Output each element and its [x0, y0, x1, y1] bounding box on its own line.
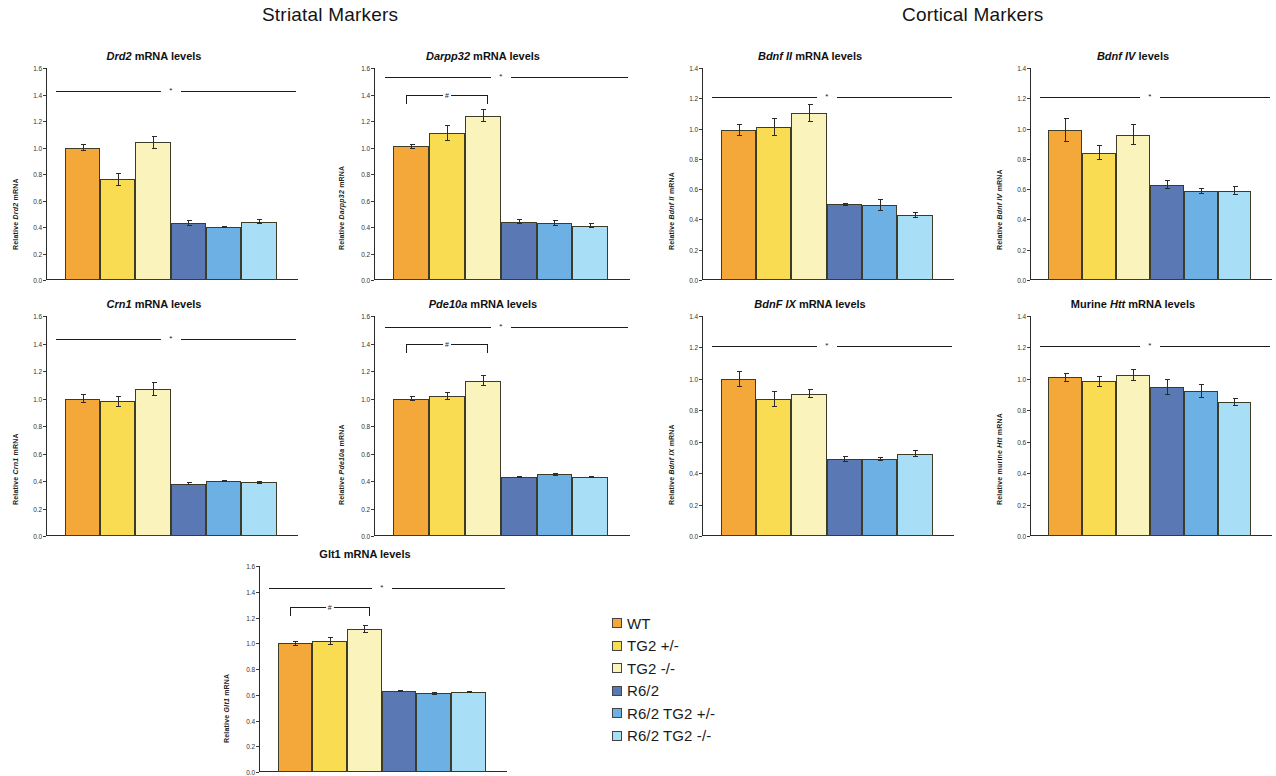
y-tick: [43, 201, 46, 202]
bar: [1116, 135, 1150, 280]
y-tick-label: 0.0: [689, 277, 698, 284]
y-tick: [371, 95, 374, 96]
significance-symbol: *: [499, 323, 502, 331]
error-bar: [1167, 180, 1168, 189]
error-bar: [188, 482, 189, 485]
y-tick: [699, 68, 702, 69]
y-tick: [256, 669, 259, 670]
y-tick-label: 0.6: [361, 450, 370, 457]
y-tick: [43, 148, 46, 149]
y-tick-label: 1.6: [361, 313, 370, 320]
bar: [721, 130, 756, 280]
y-tick-label: 1.0: [1017, 125, 1026, 132]
y-tick: [43, 509, 46, 510]
error-bar: [447, 125, 448, 141]
significance-symbol: *: [169, 87, 172, 95]
y-tick-label: 1.4: [1017, 65, 1026, 72]
y-tick-label: 1.0: [689, 375, 698, 382]
y-tick-label: 1.4: [246, 588, 255, 595]
y-tick-label: 0.4: [361, 224, 370, 231]
y-tick: [1027, 250, 1030, 251]
bracket-symbol: #: [443, 91, 451, 98]
y-tick: [1027, 219, 1030, 220]
y-tick-label: 0.8: [1017, 407, 1026, 414]
bar: [897, 454, 932, 537]
error-bar: [1099, 145, 1100, 160]
bar: [1082, 153, 1116, 280]
bar: [1218, 402, 1252, 536]
y-axis-line: [46, 316, 47, 536]
legend-label-wt: WT: [627, 615, 651, 632]
error-bar: [153, 136, 154, 149]
bar: [465, 381, 501, 536]
chart-title-htt: Murine Htt mRNA levels: [988, 298, 1276, 310]
y-tick: [43, 536, 46, 537]
error-bar: [259, 219, 260, 224]
significance-line-left: [712, 97, 816, 98]
legend-item: WT: [612, 612, 715, 635]
y-axis-line: [46, 68, 47, 280]
chart-title-crn1: Crn1 mRNA levels: [4, 298, 304, 310]
y-tick: [699, 159, 702, 160]
significance-line-left: [269, 588, 372, 589]
y-tick: [699, 129, 702, 130]
chart-title-glt1: Glt1 mRNA levels: [215, 548, 515, 560]
y-tick-label: 0.0: [246, 769, 255, 776]
chart-panel-darpp32: Darpp32 mRNA levelsRelative Darpp32 mRNA…: [330, 50, 636, 282]
bar: [100, 179, 135, 280]
significance-line-right: [392, 588, 505, 589]
error-bar: [774, 118, 775, 136]
y-tick-label: 0.6: [33, 450, 42, 457]
y-tick: [43, 68, 46, 69]
y-tick: [371, 148, 374, 149]
y-tick-label: 0.6: [246, 691, 255, 698]
y-tick: [43, 481, 46, 482]
legend-label-tg2-het: TG2 +/-: [627, 637, 679, 654]
bar: [537, 223, 573, 280]
error-bar: [1234, 398, 1235, 406]
y-tick: [256, 618, 259, 619]
bar: [465, 116, 501, 280]
error-bar: [447, 392, 448, 400]
error-bar: [153, 382, 154, 396]
error-bar: [519, 219, 520, 224]
bar: [312, 641, 347, 772]
significance-line-left: [1040, 346, 1140, 347]
error-bar: [259, 481, 260, 484]
y-tick-label: 1.2: [689, 95, 698, 102]
error-bar: [590, 223, 591, 228]
error-bar: [554, 473, 555, 476]
error-bar: [739, 124, 740, 136]
error-bar: [809, 389, 810, 398]
y-tick-label: 1.0: [689, 125, 698, 132]
y-tick: [1027, 410, 1030, 411]
y-tick: [1027, 98, 1030, 99]
error-bar: [1133, 369, 1134, 382]
significance-line-right: [837, 97, 952, 98]
error-bar: [224, 480, 225, 483]
y-tick: [1027, 536, 1030, 537]
bar: [135, 142, 170, 280]
y-tick: [699, 280, 702, 281]
bar: [1184, 391, 1218, 536]
plot-area-darpp32: 0.00.20.40.60.81.01.21.41.6*#: [374, 68, 630, 280]
bar: [537, 474, 573, 536]
y-tick: [699, 219, 702, 220]
y-tick-label: 0.8: [246, 666, 255, 673]
error-bar: [739, 371, 740, 387]
plot-area-crn1: 0.00.20.40.60.81.01.21.41.6*: [46, 316, 298, 536]
error-bar: [880, 457, 881, 460]
y-tick: [371, 280, 374, 281]
error-bar: [224, 226, 225, 229]
bar: [1116, 375, 1150, 536]
error-bar: [330, 637, 331, 645]
bar: [721, 379, 756, 536]
y-tick-label: 1.2: [246, 614, 255, 621]
bar: [862, 459, 897, 536]
y-tick-label: 0.8: [33, 171, 42, 178]
legend-item: R6/2 TG2 -/-: [612, 725, 715, 748]
plot-area-pde10a: 0.00.20.40.60.81.01.21.41.6*#: [374, 316, 630, 536]
plot-area-bdnf4: 0.00.20.40.60.81.01.21.4*: [1030, 68, 1272, 280]
legend-item: R6/2: [612, 680, 715, 703]
y-axis-line: [374, 68, 375, 280]
